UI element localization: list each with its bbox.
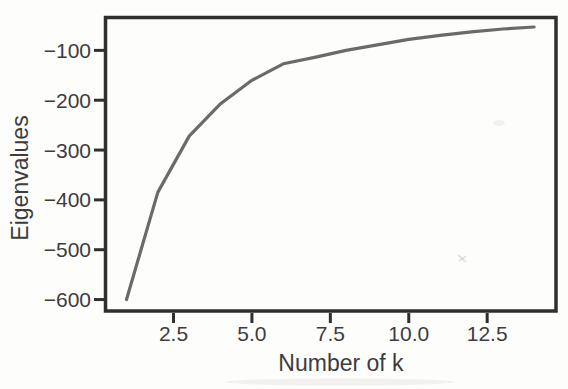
data-line	[127, 27, 535, 300]
y-tick-label: −600	[44, 288, 91, 311]
x-axis-label: Number of k	[278, 350, 404, 376]
tick-labels: 2.55.07.510.012.5−100−200−300−400−500−60…	[44, 39, 508, 345]
y-tick-label: −400	[44, 188, 91, 211]
scan-smudge	[225, 379, 455, 386]
y-tick-label: −100	[44, 39, 91, 62]
scan-artifacts	[225, 120, 505, 386]
x-tick-label: 12.5	[467, 322, 508, 345]
y-tick-label: −500	[44, 238, 91, 261]
chart-canvas: 2.55.07.510.012.5−100−200−300−400−500−60…	[0, 0, 568, 389]
y-axis-label: Eigenvalues	[7, 115, 33, 240]
x-tick-label: 10.0	[388, 322, 429, 345]
y-tick-label: −200	[44, 89, 91, 112]
axis-ticks	[94, 50, 487, 323]
scan-smudge	[493, 120, 505, 126]
y-tick-label: −300	[44, 139, 91, 162]
x-tick-label: 7.5	[316, 322, 345, 345]
x-tick-label: 5.0	[237, 322, 266, 345]
x-tick-label: 2.5	[159, 322, 188, 345]
eigenvalues-elbow-chart: 2.55.07.510.012.5−100−200−300−400−500−60…	[0, 0, 568, 389]
